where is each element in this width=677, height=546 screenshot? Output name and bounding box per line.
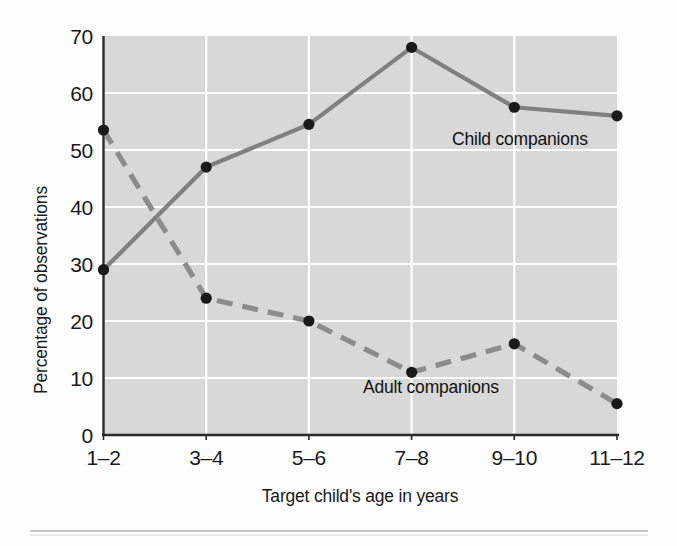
y-tick-label: 50 (70, 139, 93, 162)
data-point (509, 102, 520, 113)
data-point (303, 119, 314, 130)
line-chart: 010203040506070 1–23–45–67–89–1011–12 Ta… (0, 0, 677, 546)
data-point (98, 124, 109, 135)
child-companions-label: Child companions (452, 129, 588, 149)
x-tick-label: 3–4 (189, 446, 224, 469)
x-tick-label: 7–8 (395, 446, 429, 469)
data-point (201, 162, 212, 173)
data-point (611, 398, 622, 409)
y-tick-label: 60 (70, 82, 93, 105)
x-tick-label: 5–6 (292, 446, 326, 469)
y-tick-label: 30 (70, 253, 93, 276)
data-point (303, 315, 314, 326)
y-axis-tick-labels: 010203040506070 (70, 25, 93, 447)
data-point (201, 293, 212, 304)
y-axis-title: Percentage of observations (31, 186, 51, 394)
y-tick-label: 70 (70, 25, 93, 48)
x-tick-label: 11–12 (589, 446, 644, 469)
y-tick-label: 20 (70, 310, 93, 333)
x-axis-tick-labels: 1–23–45–67–89–1011–12 (86, 435, 644, 469)
plot-area-background (103, 36, 617, 435)
y-tick-label: 10 (70, 367, 93, 390)
y-tick-label: 0 (82, 424, 93, 447)
data-point (509, 338, 520, 349)
y-tick-label: 40 (70, 196, 93, 219)
x-tick-label: 9–10 (492, 446, 538, 469)
adult-companions-label: Adult companions (363, 377, 499, 397)
data-point (611, 110, 622, 121)
x-tick-label: 1–2 (86, 446, 120, 469)
figure-container: 010203040506070 1–23–45–67–89–1011–12 Ta… (0, 0, 677, 546)
x-axis-title: Target child's age in years (262, 486, 459, 506)
data-point (406, 42, 417, 53)
data-point (98, 264, 109, 275)
